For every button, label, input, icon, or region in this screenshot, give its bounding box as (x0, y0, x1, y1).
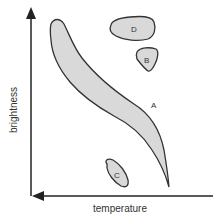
region-d-label: D (131, 25, 137, 34)
y-axis-arrow-icon (26, 7, 36, 19)
y-axis-label: brightness (8, 87, 19, 133)
region-c-label: C (114, 171, 120, 180)
diagram-canvas: A D B C temperature brightness (0, 0, 219, 219)
x-axis-label: temperature (93, 203, 147, 214)
x-axis-arrow-icon (32, 191, 44, 201)
region-a-label: A (151, 101, 157, 110)
region-b-label: B (144, 56, 149, 65)
